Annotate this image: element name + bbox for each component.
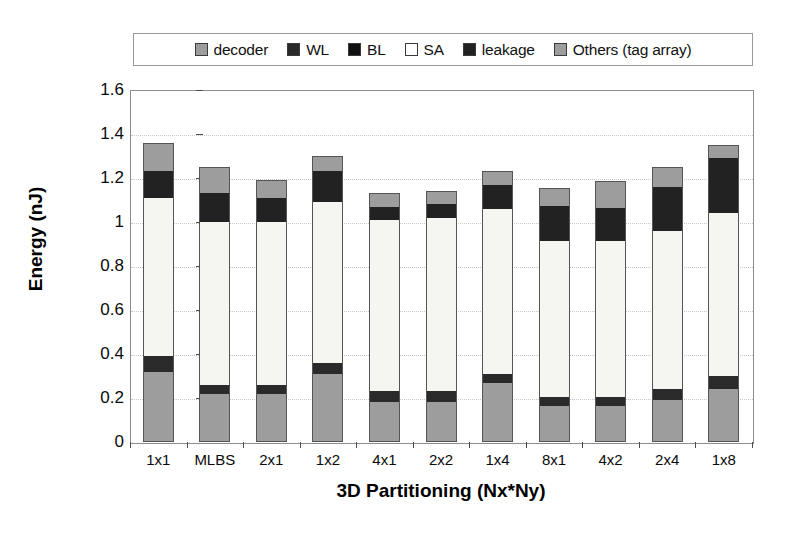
x-axis-tick-mark — [526, 442, 527, 448]
bar-segment — [708, 158, 739, 213]
legend-item-label: WL — [306, 41, 329, 59]
bar-segment — [199, 222, 230, 385]
legend-item-label: SA — [424, 41, 444, 59]
bar-segment — [595, 406, 626, 442]
bar-group — [143, 90, 174, 442]
bar-segment — [312, 363, 343, 374]
x-axis-tick-mark — [187, 442, 188, 448]
y-axis-tick-label: 1.4 — [78, 124, 124, 144]
legend-swatch-icon — [554, 43, 567, 56]
bar-segment — [708, 389, 739, 442]
y-axis-tick-labels: 1.61.41.210.80.60.40.20 — [66, 90, 124, 442]
bar-segment — [595, 208, 626, 241]
legend-swatch-icon — [405, 43, 418, 56]
bar-segment — [708, 145, 739, 158]
bar-segment — [143, 143, 174, 172]
bar-segment — [426, 402, 457, 442]
y-axis-tick-label: 0.2 — [78, 388, 124, 408]
x-axis-tick-mark — [243, 442, 244, 448]
bar-segment — [426, 204, 457, 217]
legend-item: SA — [405, 41, 444, 59]
bar-group — [595, 90, 626, 442]
legend-item-label: leakage — [482, 41, 535, 59]
bar-segment — [652, 187, 683, 231]
bar-segment — [539, 241, 570, 397]
bar-group — [482, 90, 513, 442]
x-axis-tick-mark — [413, 442, 414, 448]
bar-segment — [199, 385, 230, 394]
stacked-bar — [426, 191, 457, 442]
bar-segment — [369, 402, 400, 442]
bar-segment — [426, 218, 457, 392]
x-axis-tick-mark — [130, 442, 131, 448]
legend-item: WL — [287, 41, 329, 59]
bar-segment — [256, 385, 287, 394]
stacked-bar — [312, 156, 343, 442]
legend-item: leakage — [463, 41, 535, 59]
bar-segment — [539, 206, 570, 241]
bar-group — [199, 90, 230, 442]
bar-segment — [143, 171, 174, 197]
bar-group — [256, 90, 287, 442]
y-axis-tick-label: 0.6 — [78, 300, 124, 320]
bar-segment — [256, 180, 287, 198]
y-axis-tick-label: 1.6 — [78, 80, 124, 100]
x-axis-tick-mark — [695, 442, 696, 448]
stacked-bar — [482, 171, 513, 442]
bar-group — [426, 90, 457, 442]
stacked-bar — [143, 143, 174, 442]
bar-segment — [143, 356, 174, 371]
legend-item: Others (tag array) — [554, 41, 692, 59]
legend-item-label: BL — [367, 41, 386, 59]
bar-segment — [595, 181, 626, 207]
bar-segment — [595, 397, 626, 406]
legend-swatch-icon — [195, 43, 208, 56]
bar-series-container — [130, 90, 752, 442]
bar-segment — [143, 372, 174, 442]
x-axis-title: 3D Partitioning (Nx*Ny) — [130, 480, 752, 502]
bar-segment — [652, 167, 683, 187]
bar-segment — [199, 394, 230, 442]
y-axis-tick-label: 0 — [78, 432, 124, 452]
stacked-bar — [539, 188, 570, 442]
y-axis-tick-label: 1.2 — [78, 168, 124, 188]
legend-swatch-icon — [287, 43, 300, 56]
bar-segment — [539, 406, 570, 442]
bar-segment — [369, 207, 400, 220]
x-axis-tick-mark — [356, 442, 357, 448]
bar-segment — [312, 202, 343, 363]
legend-item: decoder — [195, 41, 269, 59]
y-axis-tick-label: 0.4 — [78, 344, 124, 364]
bar-segment — [482, 185, 513, 209]
bar-group — [652, 90, 683, 442]
chart-figure: decoderWLBLSAleakageOthers (tag array) 1… — [0, 0, 810, 533]
bar-segment — [595, 241, 626, 397]
y-axis-tick-label: 0.8 — [78, 256, 124, 276]
bar-segment — [312, 171, 343, 202]
stacked-bar — [652, 167, 683, 442]
bar-segment — [652, 400, 683, 442]
legend-item-label: Others (tag array) — [573, 41, 692, 59]
y-axis-tick-label: 1 — [78, 212, 124, 232]
x-axis-tick-mark — [300, 442, 301, 448]
legend-item: BL — [348, 41, 386, 59]
bar-segment — [143, 198, 174, 356]
bar-segment — [369, 391, 400, 402]
bar-segment — [312, 374, 343, 442]
bar-group — [369, 90, 400, 442]
bar-segment — [539, 397, 570, 406]
stacked-bar — [256, 180, 287, 442]
bar-segment — [256, 198, 287, 222]
bar-group — [312, 90, 343, 442]
x-axis-tick-marks — [130, 442, 752, 450]
bar-group — [539, 90, 570, 442]
bar-segment — [312, 156, 343, 171]
stacked-bar — [199, 167, 230, 442]
x-axis-tick-labels: 1x1MLBS2x11x24x12x21x48x14x22x41x8 — [130, 451, 752, 475]
bar-segment — [482, 209, 513, 374]
bar-segment — [369, 220, 400, 392]
legend-swatch-icon — [463, 43, 476, 56]
bar-segment — [708, 213, 739, 376]
bar-segment — [199, 167, 230, 193]
bar-segment — [652, 231, 683, 389]
